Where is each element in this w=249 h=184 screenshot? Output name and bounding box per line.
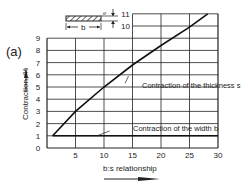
y-tick-label: 9 [36, 34, 41, 43]
panel-label: (a) [6, 44, 22, 59]
y-tick-label: 10 [121, 22, 130, 31]
cross-section-schematic: s b [66, 9, 118, 32]
y-tick-label: 5 [36, 83, 41, 92]
x-tick-label: 15 [128, 151, 137, 160]
y-tick-label: 1 [36, 132, 41, 141]
y-tick-label: 11 [121, 10, 130, 19]
y-tick-label: 6 [36, 71, 41, 80]
y-tick-label: 0 [36, 144, 41, 153]
s-label: s [102, 12, 108, 15]
contraction-chart: 0123456789101151015202530 (a) s b Contra… [0, 0, 249, 184]
x-tick-label: 20 [157, 151, 166, 160]
x-tick-label: 5 [73, 151, 78, 160]
y-tick-label: 3 [36, 107, 41, 116]
y-tick-label: 2 [36, 120, 41, 129]
y-tick-label: 8 [36, 46, 41, 55]
y-tick-label: 7 [36, 59, 41, 68]
x-axis-label: b:s relationship [103, 164, 157, 173]
b-label: b [81, 23, 86, 32]
x-tick-label: 25 [185, 151, 194, 160]
thickness-label: Contraction of the thickness s [142, 81, 241, 90]
x-tick-label: 30 [214, 151, 223, 160]
width-label: Contraction of the width b [133, 124, 218, 133]
x-tick-label: 10 [100, 151, 109, 160]
y-tick-label: 4 [36, 95, 41, 104]
